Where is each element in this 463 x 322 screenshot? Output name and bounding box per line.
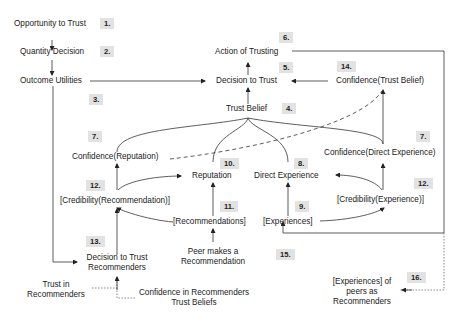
node-peer-makes-recommendation: Peer makes a Recommendation bbox=[181, 247, 245, 267]
badge-4: 4. bbox=[282, 103, 296, 114]
badge-10: 10. bbox=[220, 158, 239, 169]
node-direct-experience: Direct Experience bbox=[254, 171, 319, 181]
node-confidence-trust-belief: Confidence(Trust Belief) bbox=[336, 76, 424, 86]
node-outcome-utilities: Outcome Utilities bbox=[20, 76, 82, 86]
node-reputation: Reputation bbox=[192, 171, 232, 181]
node-credibility-experience: [Credibility(Experience)] bbox=[337, 195, 424, 205]
node-confidence-in-recommenders: Confidence in Recommenders Trust Beliefs bbox=[139, 288, 249, 308]
badge-7-left: 7. bbox=[88, 131, 102, 142]
arrow-credrec-to-reputation bbox=[118, 176, 181, 190]
badge-14: 14. bbox=[337, 61, 356, 72]
arrow-outcome-to-recommender-decision bbox=[53, 86, 77, 262]
badge-7-right: 7. bbox=[416, 131, 430, 142]
badge-8: 8. bbox=[294, 158, 308, 169]
badge-9: 9. bbox=[295, 201, 309, 212]
node-credibility-recommendation: [Credibility(Recommendation)] bbox=[60, 196, 170, 206]
badge-3: 3. bbox=[89, 94, 103, 105]
node-confidence-direct-experience: Confidence(Direct Experience) bbox=[324, 148, 436, 158]
badge-12-left: 12. bbox=[86, 180, 105, 191]
node-quantity-decision: Quantity Decision bbox=[20, 47, 84, 57]
node-opportunity-to-trust: Opportunity to Trust bbox=[14, 19, 86, 29]
badge-2: 2. bbox=[100, 46, 114, 57]
arrow-exp-to-credexp bbox=[320, 208, 384, 221]
badge-15: 15. bbox=[276, 249, 295, 260]
node-trust-in-recommenders: Trust in Recommenders bbox=[27, 280, 85, 300]
badge-6: 6. bbox=[279, 32, 293, 43]
node-recommendations: [Recommendations] bbox=[173, 217, 246, 227]
badge-11: 11. bbox=[220, 201, 238, 212]
node-trust-belief: Trust Belief bbox=[226, 104, 267, 114]
node-experiences-of-peers: [Experiences] of peers as Recommenders bbox=[333, 277, 392, 307]
curve-confdirect-to-belief bbox=[248, 118, 383, 144]
curve-direct-to-belief bbox=[248, 118, 288, 162]
node-confidence-reputation: Confidence(Reputation) bbox=[72, 152, 158, 162]
node-action-of-trusting: Action of Trusting bbox=[215, 47, 278, 57]
dotted-confidence-in-recommenders bbox=[117, 278, 135, 298]
node-experiences: [Experiences] bbox=[263, 217, 313, 227]
trust-diagram: Opportunity to Trust Quantity Decision O… bbox=[0, 0, 463, 322]
badge-16: 16. bbox=[407, 272, 426, 283]
badge-12-right: 12. bbox=[414, 178, 433, 189]
node-decision-to-trust: Decision to Trust bbox=[216, 76, 277, 86]
badge-13: 13. bbox=[86, 236, 105, 247]
badge-5: 5. bbox=[279, 62, 293, 73]
badge-1: 1. bbox=[100, 18, 114, 29]
arrow-recs-to-credrec bbox=[117, 208, 173, 222]
node-decision-to-trust-recommenders: Decision to Trust Recommenders bbox=[87, 253, 148, 273]
arrow-credexp-to-direct bbox=[336, 175, 382, 190]
curve-reputation-to-belief bbox=[213, 118, 248, 162]
